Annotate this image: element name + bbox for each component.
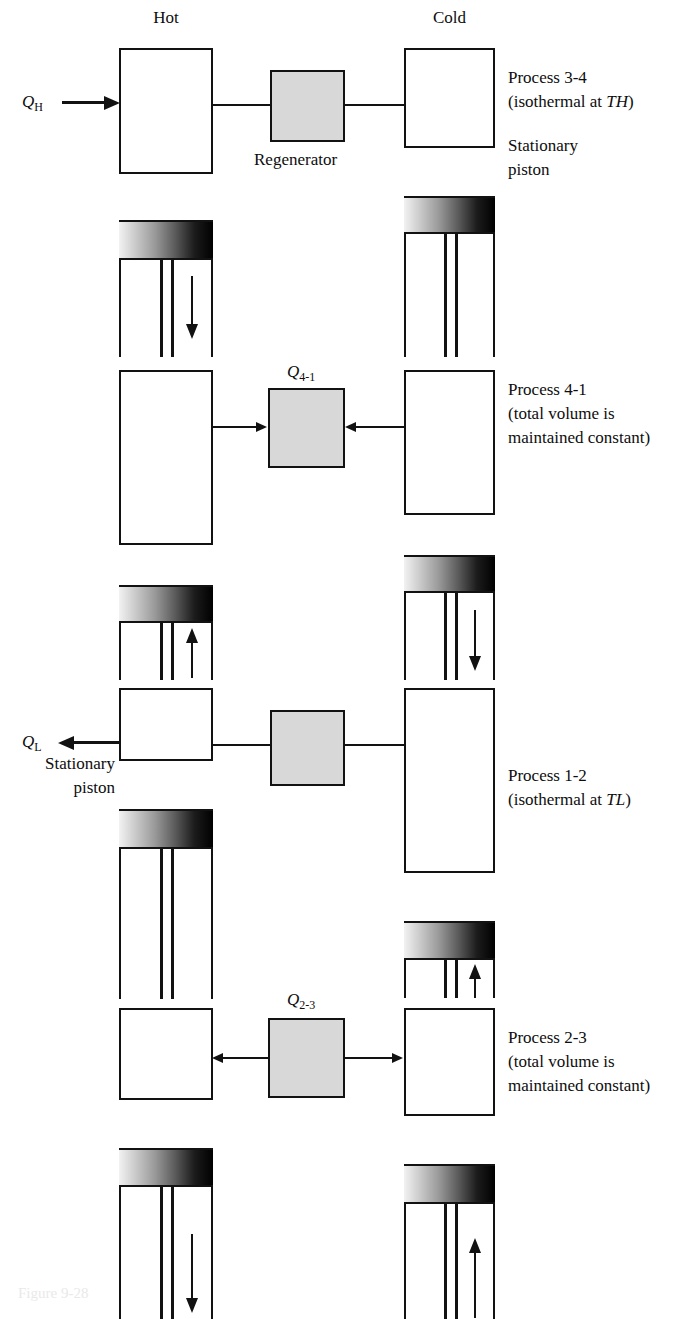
panel4-note-line1: Process 2-3 — [508, 1026, 587, 1050]
cold-cylinder-chamber-3 — [404, 688, 495, 873]
panel2-note-line3: maintained constant) — [508, 426, 650, 450]
cold-piston-block — [404, 196, 495, 234]
panel1-note-line2-prefix: (isothermal at — [508, 92, 606, 111]
arrow-regenerator-to-hot-4 — [212, 1052, 269, 1064]
panel1-note-line3: Stationary — [508, 134, 578, 158]
pipe-regenerator-to-cold-1 — [344, 104, 405, 106]
arrow-regenerator-to-cold-4 — [345, 1052, 404, 1064]
q-h-symbol: Q — [22, 92, 34, 111]
hot-piston-block-3 — [119, 809, 213, 849]
panel1-note-line4: piston — [508, 158, 550, 182]
hot-piston-motion-arrow-down-4 — [185, 1234, 199, 1316]
q-2-3-label: Q2-3 — [287, 990, 315, 1013]
hot-piston-rod-right-4 — [171, 1187, 174, 1319]
pipe-regenerator-to-cold-3 — [344, 744, 405, 746]
panel1-note-line2-suffix: ) — [628, 92, 634, 111]
pipe-hot-to-regenerator-1 — [212, 104, 272, 106]
cold-piston-motion-arrow-up-4 — [468, 1238, 482, 1318]
regenerator-box-3 — [270, 710, 345, 786]
panel1-note-temp-symbol: T — [606, 92, 615, 111]
panel-process-1-2: QL Stationary piston Process 1-2 (isot — [0, 640, 686, 970]
figure-caption-faint: Figure 9-28 — [18, 1285, 88, 1302]
panel1-note-line1: Process 3-4 — [508, 66, 587, 90]
q-h-subscript: H — [34, 100, 43, 114]
q-2-3-subscript: 2-3 — [299, 998, 315, 1012]
cold-piston-block-3 — [404, 921, 495, 960]
hot-cylinder-chamber-2 — [119, 370, 213, 545]
hot-piston-rod-left-4 — [160, 1187, 163, 1319]
panel-process-2-3: Q2-3 Process 2-3 (total volume is mainta — [0, 960, 686, 1299]
panel-process-3-4: Hot Cold QH Regenerator — [0, 0, 686, 330]
cold-piston-block-2 — [404, 555, 495, 593]
regenerator-label: Regenerator — [254, 150, 337, 170]
panel2-note-line1: Process 4-1 — [508, 378, 587, 402]
cold-cylinder-chamber-2 — [404, 370, 495, 515]
q-l-outflow-arrow — [58, 735, 120, 751]
cold-piston-block-4 — [404, 1164, 495, 1204]
cold-cylinder-chamber — [404, 48, 495, 148]
q-h-inflow-arrow — [62, 95, 120, 111]
hot-piston-block-4 — [119, 1148, 213, 1187]
hot-cylinder-chamber-3 — [119, 688, 213, 761]
panel3-note-line1: Process 1-2 — [508, 764, 587, 788]
q-2-3-symbol: Q — [287, 990, 299, 1009]
panel-process-4-1: Q4-1 Process 4-1 (total volume is mainta — [0, 330, 686, 650]
regenerator-box-4 — [268, 1018, 345, 1098]
regenerator-box-2 — [268, 388, 345, 468]
hot-cylinder-chamber — [119, 48, 213, 174]
pipe-hot-to-regenerator-3 — [212, 744, 272, 746]
hot-cylinder-chamber-4 — [119, 1008, 213, 1100]
panel4-note-line3: maintained constant) — [508, 1074, 650, 1098]
arrow-cold-to-regenerator-2 — [345, 421, 404, 433]
cold-cylinder-chamber-4 — [404, 1008, 495, 1116]
cold-piston-rod-left-4 — [444, 1204, 447, 1319]
cold-piston-rod-right-4 — [455, 1204, 458, 1319]
panel3-stationary-label: Stationary — [0, 752, 115, 776]
panel3-note-temp-symbol: T — [606, 790, 615, 809]
q-4-1-symbol: Q — [287, 362, 299, 381]
q-l-symbol: Q — [22, 732, 34, 751]
hot-column-label: Hot — [119, 8, 213, 28]
cold-column-label: Cold — [404, 8, 495, 28]
panel2-note-line2: (total volume is — [508, 402, 615, 426]
panel3-note-line2-suffix: ) — [625, 790, 631, 809]
panel3-note-line2: (isothermal at TL) — [508, 788, 631, 812]
hot-piston-block-2 — [119, 585, 213, 623]
panel4-note-line2: (total volume is — [508, 1050, 615, 1074]
panel3-note-temp-subscript: L — [616, 790, 625, 809]
panel1-note-temp-subscript: H — [616, 92, 628, 111]
panel1-note-line2: (isothermal at TH) — [508, 90, 634, 114]
q-4-1-label: Q4-1 — [287, 362, 315, 385]
panel3-piston-label: piston — [0, 776, 115, 800]
panel3-note-line2-prefix: (isothermal at — [508, 790, 606, 809]
arrow-hot-to-regenerator-2 — [212, 421, 269, 433]
hot-piston-block — [119, 220, 213, 260]
regenerator-box-1 — [270, 70, 345, 142]
q-h-label: QH — [22, 92, 43, 115]
q-4-1-subscript: 4-1 — [299, 370, 315, 384]
